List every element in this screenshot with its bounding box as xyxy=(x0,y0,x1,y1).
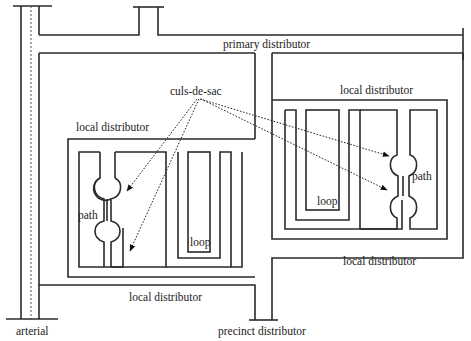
label-local-distributor-nw: local distributor xyxy=(76,121,149,133)
label-local-distributor-se: local distributor xyxy=(343,255,416,267)
label-primary-distributor: primary distributor xyxy=(223,38,310,51)
label-local-distributor-sw: local distributor xyxy=(129,291,202,303)
label-loop-right: loop xyxy=(317,195,338,208)
road-hierarchy-diagram: primary distributor culs-de-sac local di… xyxy=(0,0,471,341)
label-culs-de-sac: culs-de-sac xyxy=(170,85,222,97)
primary-distributor-road xyxy=(39,7,463,60)
label-local-distributor-ne: local distributor xyxy=(340,84,413,96)
left-block xyxy=(79,152,242,267)
label-path-right: path xyxy=(412,170,432,183)
label-arterial: arterial xyxy=(16,325,49,337)
label-precinct-distributor: precinct distributor xyxy=(218,325,306,338)
label-path-left: path xyxy=(78,209,98,222)
label-loop-left: loop xyxy=(190,236,211,249)
